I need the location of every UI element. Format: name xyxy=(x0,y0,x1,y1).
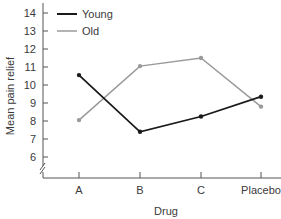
x-tick-label: Placebo xyxy=(241,184,281,196)
legend-item-young: Young xyxy=(57,8,113,20)
series-line xyxy=(79,58,261,120)
data-point xyxy=(138,64,142,68)
y-tick-label: 7 xyxy=(30,133,36,145)
data-point xyxy=(259,95,263,99)
data-point xyxy=(77,118,81,122)
legend: YoungOld xyxy=(57,8,113,37)
data-point xyxy=(259,104,263,108)
legend-item-old: Old xyxy=(57,25,99,37)
legend-label: Young xyxy=(82,8,113,20)
x-tick-label: C xyxy=(197,184,205,196)
axes: 67891011121314ABCPlacebo xyxy=(24,3,281,196)
legend-label: Old xyxy=(82,25,99,37)
y-axis-title: Mean pain relief xyxy=(4,56,16,135)
line-chart: 67891011121314ABCPlacebo YoungOld Mean p… xyxy=(0,0,281,219)
y-tick-label: 13 xyxy=(24,25,36,37)
series-young xyxy=(77,73,263,134)
data-point xyxy=(138,130,142,134)
y-tick-label: 6 xyxy=(30,151,36,163)
data-point xyxy=(199,56,203,60)
y-tick-label: 8 xyxy=(30,115,36,127)
x-axis-title: Drug xyxy=(154,205,178,217)
x-tick-label: B xyxy=(136,184,143,196)
y-tick-label: 12 xyxy=(24,43,36,55)
y-tick-label: 10 xyxy=(24,79,36,91)
x-tick-label: A xyxy=(75,184,83,196)
data-point xyxy=(199,114,203,118)
series-old xyxy=(77,56,263,123)
y-tick-label: 9 xyxy=(30,97,36,109)
data-point xyxy=(77,73,81,77)
y-tick-label: 14 xyxy=(24,7,36,19)
y-tick-label: 11 xyxy=(25,61,36,73)
series-group xyxy=(77,56,263,134)
